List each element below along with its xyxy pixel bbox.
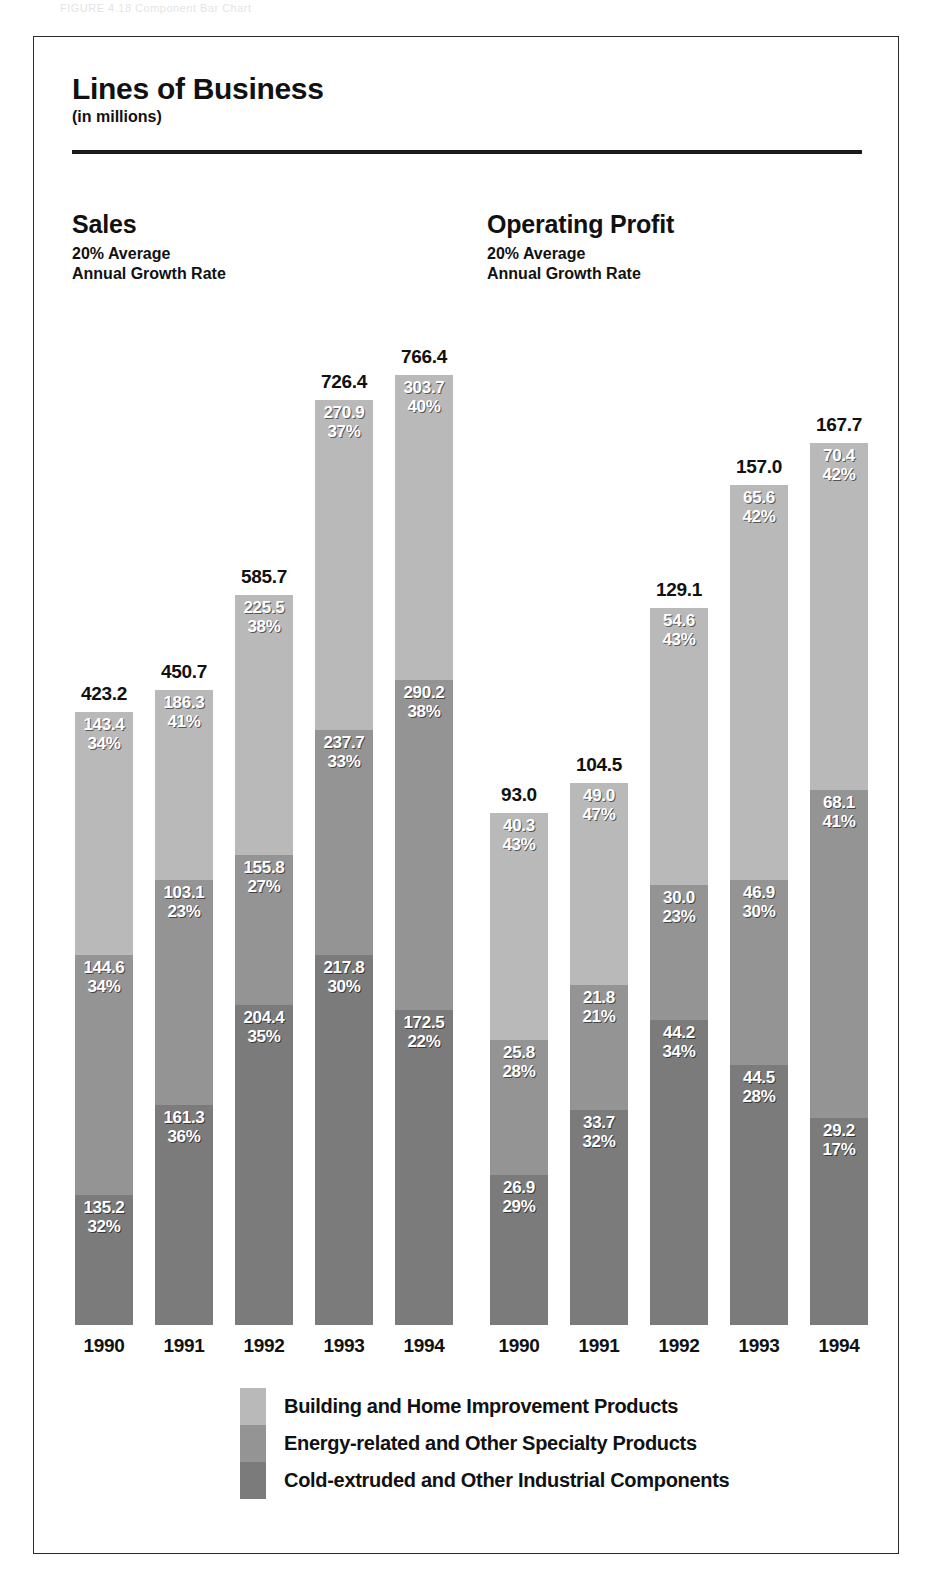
bar-segment-0: 303.740% xyxy=(395,375,453,680)
bar-sales-1990: 143.434%144.634%135.232% xyxy=(75,712,133,1325)
segment-value: 303.7 xyxy=(403,378,444,397)
bar-segment-1: 103.123% xyxy=(155,880,213,1105)
bar-segment-1: 30.023% xyxy=(650,885,708,1020)
bar-segment-0: 186.341% xyxy=(155,690,213,880)
x-axis-tick-1993: 1993 xyxy=(719,1335,799,1357)
bar-total-label: 450.7 xyxy=(144,661,224,683)
bar-total-label: 157.0 xyxy=(719,456,799,478)
segment-percent: 30% xyxy=(327,977,360,996)
legend-label-energy: Energy-related and Other Specialty Produ… xyxy=(284,1432,697,1455)
segment-value: 46.9 xyxy=(743,883,775,902)
bar-segment-0: 70.442% xyxy=(810,443,868,790)
segment-percent: 21% xyxy=(582,1007,615,1026)
bar-segment-2: 44.234% xyxy=(650,1020,708,1325)
segment-percent: 27% xyxy=(247,877,280,896)
segment-percent: 28% xyxy=(742,1087,775,1106)
bar-operating-profit-1993: 65.642%46.930%44.528% xyxy=(730,485,788,1325)
segment-percent: 28% xyxy=(502,1062,535,1081)
bar-segment-0: 143.434% xyxy=(75,712,133,955)
segment-value: 33.7 xyxy=(583,1113,615,1132)
segment-percent: 33% xyxy=(327,752,360,771)
bar-segment-0: 225.538% xyxy=(235,595,293,855)
bar-segment-0: 49.047% xyxy=(570,783,628,985)
bar-segment-0: 54.643% xyxy=(650,608,708,885)
segment-value: 217.8 xyxy=(323,958,364,977)
segment-percent: 34% xyxy=(87,734,120,753)
bar-sales-1991: 186.341%103.123%161.336% xyxy=(155,690,213,1325)
bar-total-label: 585.7 xyxy=(224,566,304,588)
bar-segment-0: 270.937% xyxy=(315,400,373,730)
segment-value: 135.2 xyxy=(83,1198,124,1217)
segment-value: 30.0 xyxy=(663,888,695,907)
x-axis-tick-1990: 1990 xyxy=(479,1335,559,1357)
segment-value: 186.3 xyxy=(163,693,204,712)
bar-segment-2: 135.232% xyxy=(75,1195,133,1325)
bar-segment-1: 237.733% xyxy=(315,730,373,955)
bar-total-label: 129.1 xyxy=(639,579,719,601)
bar-segment-1: 290.238% xyxy=(395,680,453,1010)
segment-value: 270.9 xyxy=(323,403,364,422)
bar-total-label: 93.0 xyxy=(479,784,559,806)
stacked-bar-chart-plot: 143.434%144.634%135.232%423.21990186.341… xyxy=(0,0,930,1590)
legend-label-cold-extruded: Cold-extruded and Other Industrial Compo… xyxy=(284,1469,729,1492)
segment-value: 225.5 xyxy=(243,598,284,617)
bar-segment-2: 26.929% xyxy=(490,1175,548,1325)
segment-value: 155.8 xyxy=(243,858,284,877)
bar-segment-0: 65.642% xyxy=(730,485,788,880)
x-axis-tick-1993: 1993 xyxy=(304,1335,384,1357)
segment-value: 143.4 xyxy=(83,715,124,734)
bar-total-label: 423.2 xyxy=(64,683,144,705)
segment-value: 49.0 xyxy=(583,786,615,805)
segment-percent: 43% xyxy=(502,835,535,854)
segment-value: 65.6 xyxy=(743,488,775,507)
segment-percent: 37% xyxy=(327,422,360,441)
bar-segment-1: 21.821% xyxy=(570,985,628,1110)
legend-item-energy: Energy-related and Other Specialty Produ… xyxy=(240,1425,729,1462)
segment-percent: 22% xyxy=(407,1032,440,1051)
bar-segment-2: 161.336% xyxy=(155,1105,213,1325)
bar-segment-0: 40.343% xyxy=(490,813,548,1040)
legend-item-building: Building and Home Improvement Products xyxy=(240,1388,729,1425)
segment-percent: 23% xyxy=(167,902,200,921)
bar-segment-1: 144.634% xyxy=(75,955,133,1195)
segment-percent: 42% xyxy=(742,507,775,526)
x-axis-tick-1991: 1991 xyxy=(144,1335,224,1357)
segment-value: 103.1 xyxy=(163,883,204,902)
x-axis-tick-1992: 1992 xyxy=(639,1335,719,1357)
bar-segment-1: 25.828% xyxy=(490,1040,548,1175)
segment-value: 26.9 xyxy=(503,1178,535,1197)
segment-percent: 43% xyxy=(662,630,695,649)
bar-operating-profit-1992: 54.643%30.023%44.234% xyxy=(650,608,708,1325)
bar-segment-1: 155.827% xyxy=(235,855,293,1005)
bar-segment-1: 68.141% xyxy=(810,790,868,1118)
segment-percent: 29% xyxy=(502,1197,535,1216)
segment-percent: 36% xyxy=(167,1127,200,1146)
segment-percent: 38% xyxy=(407,702,440,721)
segment-value: 237.7 xyxy=(323,733,364,752)
segment-value: 290.2 xyxy=(403,683,444,702)
segment-percent: 32% xyxy=(87,1217,120,1236)
segment-value: 40.3 xyxy=(503,816,535,835)
segment-percent: 17% xyxy=(822,1140,855,1159)
segment-percent: 34% xyxy=(662,1042,695,1061)
chart-legend: Building and Home Improvement Products E… xyxy=(240,1388,729,1499)
x-axis-tick-1994: 1994 xyxy=(799,1335,879,1357)
bar-total-label: 766.4 xyxy=(384,346,464,368)
segment-percent: 30% xyxy=(742,902,775,921)
bar-segment-2: 44.528% xyxy=(730,1065,788,1325)
bar-total-label: 726.4 xyxy=(304,371,384,393)
x-axis-tick-1992: 1992 xyxy=(224,1335,304,1357)
segment-percent: 34% xyxy=(87,977,120,996)
segment-percent: 38% xyxy=(247,617,280,636)
bar-segment-2: 172.522% xyxy=(395,1010,453,1325)
segment-value: 44.5 xyxy=(743,1068,775,1087)
segment-percent: 35% xyxy=(247,1027,280,1046)
bar-sales-1993: 270.937%237.733%217.830% xyxy=(315,400,373,1325)
bar-operating-profit-1991: 49.047%21.821%33.732% xyxy=(570,783,628,1325)
segment-percent: 40% xyxy=(407,397,440,416)
bar-segment-2: 204.435% xyxy=(235,1005,293,1325)
legend-item-cold-extruded: Cold-extruded and Other Industrial Compo… xyxy=(240,1462,729,1499)
legend-label-building: Building and Home Improvement Products xyxy=(284,1395,678,1418)
segment-value: 21.8 xyxy=(583,988,615,1007)
segment-percent: 47% xyxy=(582,805,615,824)
